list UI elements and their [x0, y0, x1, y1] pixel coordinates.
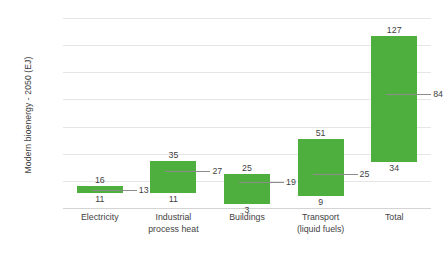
plot-area: 0204060801001201401611133511272531951925…: [63, 18, 431, 208]
bar[interactable]: [371, 36, 417, 162]
bar-high-label: 25: [242, 163, 252, 173]
y-axis-title: Modern bioenergy - 2050 (EJ): [23, 25, 33, 205]
median-marker: [313, 174, 358, 175]
x-axis-category-line: (liquid fuels): [284, 224, 358, 236]
bar-high-label: 16: [95, 175, 105, 185]
bar[interactable]: [150, 161, 196, 194]
bar-high-label: 35: [168, 150, 178, 160]
bar[interactable]: [224, 174, 270, 204]
bar-group: 25319: [210, 18, 284, 208]
x-axis-category-label: Industrialprocess heat: [137, 212, 211, 235]
x-axis-category-label: Total: [357, 212, 431, 224]
median-marker: [239, 182, 284, 183]
x-axis-category-line: process heat: [137, 224, 211, 236]
bar-low-label: 11: [95, 194, 104, 204]
bar-chart: Modern bioenergy - 2050 (EJ) 02040608010…: [0, 0, 445, 256]
x-axis-category-line: Transport: [284, 212, 358, 224]
bar-low-label: 11: [169, 194, 178, 204]
x-axis-category-label: Buildings: [210, 212, 284, 224]
median-marker: [92, 190, 137, 191]
x-axis-category-line: Buildings: [210, 212, 284, 224]
bar-high-label: 127: [387, 25, 402, 35]
median-marker: [386, 94, 431, 95]
bar[interactable]: [298, 139, 344, 196]
x-axis-category-line: Total: [357, 212, 431, 224]
bar-high-label: 51: [316, 128, 326, 138]
bar-low-label: 34: [389, 163, 399, 173]
bar-group: 161113: [63, 18, 137, 208]
x-axis-category-label: Electricity: [63, 212, 137, 224]
median-marker: [165, 171, 210, 172]
bar-median-label: 84: [433, 89, 443, 99]
bar-group: 51925: [284, 18, 358, 208]
x-axis-category-line: Electricity: [63, 212, 137, 224]
x-axis-category-line: Industrial: [137, 212, 211, 224]
x-axis-category-label: Transport(liquid fuels): [284, 212, 358, 235]
bar-group: 1273484: [357, 18, 431, 208]
bar-group: 351127: [137, 18, 211, 208]
bar-low-label: 9: [318, 197, 323, 207]
